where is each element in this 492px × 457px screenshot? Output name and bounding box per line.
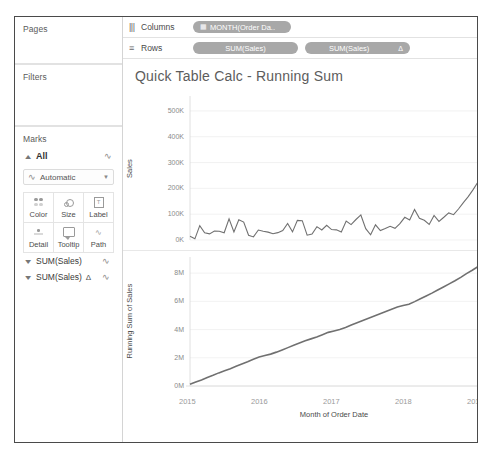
field-card-label: SUM(Sales): [34, 272, 82, 282]
y-tick-label: 100K: [123, 210, 184, 217]
y-axis-title: Running Sum of Sales: [125, 286, 134, 358]
chart-sales[interactable]: 0K100K200K300K400K500KSales: [123, 90, 477, 250]
field-card-sum-sales[interactable]: ▼ SUM(Sales) ∿: [23, 253, 114, 269]
marks-label-label: Label: [89, 210, 107, 219]
y-tick-label: 0M: [123, 382, 184, 389]
columns-shelf[interactable]: ||| Columns ▦ MONTH(Order Da..: [123, 17, 477, 38]
filters-card[interactable]: Filters: [15, 64, 122, 126]
size-circles-icon: [64, 197, 74, 208]
mark-type-value: Automatic: [36, 173, 103, 182]
y-tick-label: 0K: [123, 236, 184, 243]
y-tick-label: 8M: [123, 269, 184, 276]
pill-label: SUM(Sales): [312, 44, 386, 53]
x-tick-label: 2018: [395, 397, 412, 406]
data-series-line: [190, 267, 477, 385]
chevron-down-icon: ▼: [23, 258, 36, 265]
visualization-area[interactable]: Quick Table Calc - Running Sum 0K100K200…: [123, 59, 477, 442]
line-mark-icon: ∿: [102, 257, 110, 266]
pages-title: Pages: [23, 24, 114, 34]
x-tick-label: 2016: [251, 397, 268, 406]
rows-shelf-label: Rows: [141, 43, 193, 53]
pill-month-order-date[interactable]: ▦ MONTH(Order Da..: [193, 21, 291, 33]
charts-root: 0K100K200K300K400K500KSales0M2M4M6M8MRun…: [123, 90, 477, 426]
marks-card: Marks ▲ All ∿ ∿ Automatic ▼ Color: [15, 126, 122, 442]
label-box-icon: T: [94, 197, 104, 208]
marks-label-button[interactable]: T Label: [84, 193, 114, 223]
marks-color-button[interactable]: Color: [24, 193, 54, 223]
marks-detail-label: Detail: [29, 240, 48, 249]
left-sidebar: Pages Filters Marks ▲ All ∿ ∿ Automatic …: [15, 17, 123, 442]
marks-title: Marks: [23, 134, 114, 144]
marks-tooltip-button[interactable]: Tooltip: [54, 223, 84, 253]
marks-all-label: All: [34, 151, 104, 161]
y-tick-label: 500K: [123, 107, 184, 114]
worksheet-pane: ||| Columns ▦ MONTH(Order Da.. ≡ Rows SU…: [123, 17, 477, 442]
pill-label: SUM(Sales): [225, 44, 265, 53]
page-title: Quick Table Calc - Running Sum: [123, 59, 477, 90]
marks-path-button[interactable]: ∿ Path: [84, 223, 114, 253]
x-tick-label: 2015: [179, 397, 196, 406]
table-calc-delta-icon: Δ: [398, 45, 403, 52]
chevron-down-icon: ▼: [103, 174, 109, 180]
calendar-icon: ▦: [200, 23, 207, 31]
chart-running-sum[interactable]: 0M2M4M6M8MRunning Sum of Sales2015201620…: [123, 251, 477, 426]
field-card-sum-sales-delta[interactable]: ▼ SUM(Sales) Δ ∿: [23, 269, 114, 285]
rows-shelf[interactable]: ≡ Rows SUM(Sales) SUM(Sales) Δ: [123, 38, 477, 59]
pill-label: MONTH(Order Da..: [210, 23, 275, 32]
marks-color-label: Color: [30, 210, 48, 219]
chevron-down-icon: ▼: [23, 274, 36, 281]
marks-all-header[interactable]: ▲ All ∿: [23, 151, 114, 161]
y-axis-title: Sales: [125, 133, 134, 205]
data-series-line: [190, 182, 477, 239]
color-dots-icon: [34, 197, 43, 208]
pill-sum-sales[interactable]: SUM(Sales): [193, 42, 298, 54]
x-tick-label: 2017: [323, 397, 340, 406]
pages-card[interactable]: Pages: [15, 17, 122, 64]
line-mark-icon: ∿: [102, 273, 110, 282]
pill-sum-sales-running[interactable]: SUM(Sales) Δ: [305, 42, 410, 54]
marks-path-label: Path: [91, 240, 106, 249]
path-line-icon: ∿: [95, 227, 102, 238]
columns-icon: |||: [129, 22, 141, 32]
chevron-up-icon: ▲: [23, 153, 36, 160]
columns-shelf-label: Columns: [141, 22, 193, 32]
filters-title: Filters: [23, 72, 114, 82]
mark-encoding-buttons: Color Size T Label: [23, 192, 114, 253]
measure-field-cards: ▼ SUM(Sales) ∿ ▼ SUM(Sales) Δ ∿: [23, 253, 114, 293]
line-mark-icon: ∿: [104, 152, 112, 161]
chart-sales-svg: [123, 90, 477, 250]
tableau-worksheet-window: Pages Filters Marks ▲ All ∿ ∿ Automatic …: [14, 16, 478, 443]
detail-dots-icon: [34, 227, 44, 238]
line-mark-icon: ∿: [28, 173, 36, 182]
table-calc-delta-icon: Δ: [82, 273, 91, 282]
marks-size-label: Size: [61, 210, 76, 219]
x-axis-title: Month of Order Date: [190, 410, 477, 419]
rows-icon: ≡: [129, 43, 141, 53]
marks-detail-button[interactable]: Detail: [24, 223, 54, 253]
marks-size-button[interactable]: Size: [54, 193, 84, 223]
x-tick-label: 2019: [467, 397, 477, 406]
mark-type-dropdown[interactable]: ∿ Automatic ▼: [23, 169, 114, 185]
field-card-label: SUM(Sales): [34, 256, 82, 266]
tooltip-bubble-icon: [63, 227, 75, 238]
marks-tooltip-label: Tooltip: [58, 240, 80, 249]
